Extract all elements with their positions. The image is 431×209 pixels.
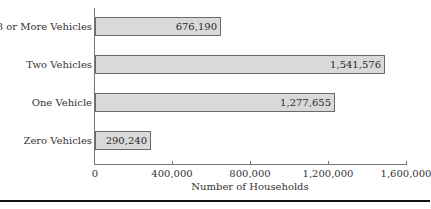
x-axis-title: Number of Households (191, 181, 308, 193)
bar-one-vehicle: 1,277,655 (95, 93, 335, 112)
x-tick (328, 161, 329, 165)
category-label: Zero Vehicles (23, 135, 92, 147)
x-tick (406, 161, 407, 165)
x-tick-label: 400,000 (151, 168, 192, 180)
x-tick (250, 161, 251, 165)
category-label: 3 or More Vehicles (0, 21, 92, 33)
bar-value-label: 676,190 (176, 21, 217, 33)
category-label: One Vehicle (32, 97, 92, 109)
x-tick-label: 800,000 (229, 168, 270, 180)
x-tick (94, 161, 95, 165)
bar-two-vehicles: 1,541,576 (95, 55, 385, 74)
bar-3-or-more-vehicles: 676,190 (95, 17, 221, 36)
bar-value-label: 1,541,576 (330, 59, 381, 71)
category-label: Two Vehicles (26, 59, 92, 71)
x-tick (172, 161, 173, 165)
bar-value-label: 290,240 (106, 135, 147, 147)
bottom-rule (0, 200, 430, 202)
x-tick-label: 1,600,000 (381, 168, 431, 180)
x-tick-label: 0 (92, 168, 98, 180)
x-tick-label: 1,200,000 (303, 168, 354, 180)
bar-zero-vehicles: 290,240 (95, 131, 151, 150)
bar-value-label: 1,277,655 (280, 97, 331, 109)
